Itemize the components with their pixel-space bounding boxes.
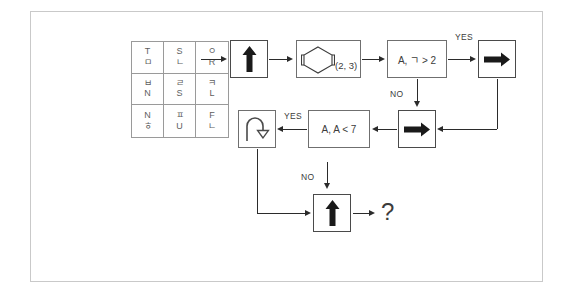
connector-final-to-question — [353, 213, 369, 214]
arrowhead-cond2-no — [324, 183, 330, 189]
arrowhead-cond2-yes — [277, 126, 283, 132]
glyph-cell-r3c1: N ㅎ — [132, 105, 164, 137]
connector-cond1-no-vertical — [417, 79, 418, 101]
glyph-top: ㄹ — [176, 79, 184, 88]
glyph-cell-r2c2: ㄹ S — [164, 74, 196, 106]
condition-one-text: A, ㄱ > 2 — [398, 52, 436, 67]
page-border-frame: T ㅁ S ㄴ ㅇ R ㅂ N ㄹ S ㅋ L — [30, 11, 543, 282]
node-condition-one[interactable]: A, ㄱ > 2 — [387, 40, 447, 78]
glyph-top: S — [176, 47, 182, 56]
node-final-arrow-up[interactable] — [313, 194, 351, 232]
arrow-up-icon — [242, 46, 257, 72]
connector-cond2-yes — [283, 129, 307, 130]
connector-noright-to-cond2 — [378, 129, 397, 130]
glyph-top: ㅍ — [176, 111, 184, 120]
hexagon-params-label: (2, 3) — [335, 60, 357, 71]
glyph-top: F — [209, 111, 215, 120]
edge-label-no-top: NO — [390, 89, 403, 99]
glyph-grid: T ㅁ S ㄴ ㅇ R ㅂ N ㄹ S ㅋ L — [131, 41, 229, 138]
glyph-bottom: ㄴ — [208, 122, 216, 131]
hexagon-bracket-icon — [301, 46, 335, 78]
glyph-cell-r2c1: ㅂ N — [132, 74, 164, 106]
connector-cond1-yes — [448, 59, 470, 60]
glyph-bottom: L — [209, 89, 214, 98]
arrow-right-icon — [404, 122, 430, 137]
connector-grid-to-start — [201, 59, 221, 60]
glyph-top: ㅇ — [208, 47, 216, 56]
node-uturn-arrow[interactable] — [238, 110, 276, 148]
glyph-bottom: U — [176, 122, 183, 131]
arrowhead-grid-to-start — [221, 56, 227, 62]
arrowhead-noright-to-cond2 — [372, 126, 378, 132]
question-mark-label: ? — [381, 200, 394, 224]
glyph-cell-r3c3: F ㄴ — [196, 105, 228, 137]
node-condition-two[interactable]: A, A < 7 — [308, 110, 370, 148]
screenshot-canvas: T ㅁ S ㄴ ㅇ R ㅂ N ㄹ S ㅋ L — [0, 0, 573, 294]
arrowhead-into-final-up-box — [305, 210, 311, 216]
glyph-bottom: N — [144, 89, 151, 98]
node-no-arrow-right[interactable] — [398, 110, 436, 148]
glyph-top: ㅂ — [144, 79, 152, 88]
connector-yesright-down — [497, 79, 498, 129]
arrow-up-icon — [325, 200, 340, 226]
glyph-top: ㅋ — [208, 79, 216, 88]
arrowhead-cond1-yes — [470, 56, 476, 62]
edge-label-yes-top: YES — [455, 32, 473, 42]
glyph-bottom: ㄴ — [176, 58, 184, 67]
arrowhead-hexagon-to-cond1 — [379, 56, 385, 62]
arrow-uturn-icon — [243, 115, 271, 143]
glyph-bottom: S — [176, 89, 182, 98]
glyph-top: N — [144, 111, 151, 120]
connector-yesright-left — [443, 129, 497, 130]
connector-cond2-no-vertical — [327, 162, 328, 183]
connector-uturn-right — [257, 213, 305, 214]
node-yes-arrow-right[interactable] — [478, 40, 516, 78]
edge-label-no-mid: NO — [301, 172, 314, 182]
node-start-arrow-up[interactable] — [230, 40, 268, 78]
node-hexagon-shape[interactable]: (2, 3) — [296, 40, 361, 78]
arrow-right-icon — [484, 52, 510, 67]
glyph-cell-r1c2: S ㄴ — [164, 42, 196, 74]
arrowhead-final-to-question — [369, 210, 375, 216]
connector-hexagon-to-cond1 — [362, 59, 379, 60]
arrowhead-start-to-hexagon — [287, 56, 293, 62]
arrowhead-cond1-no — [414, 101, 420, 107]
glyph-bottom: ㅁ — [144, 58, 152, 67]
glyph-cell-r3c2: ㅍ U — [164, 105, 196, 137]
condition-two-text: A, A < 7 — [322, 124, 357, 135]
glyph-cell-r1c1: T ㅁ — [132, 42, 164, 74]
edge-label-yes-mid: YES — [284, 111, 302, 121]
connector-uturn-down — [257, 149, 258, 213]
glyph-bottom: ㅎ — [144, 122, 152, 131]
connector-start-to-hexagon — [269, 59, 287, 60]
glyph-top: T — [145, 47, 151, 56]
glyph-cell-r2c3: ㅋ L — [196, 74, 228, 106]
arrowhead-into-no-right-box — [437, 126, 443, 132]
